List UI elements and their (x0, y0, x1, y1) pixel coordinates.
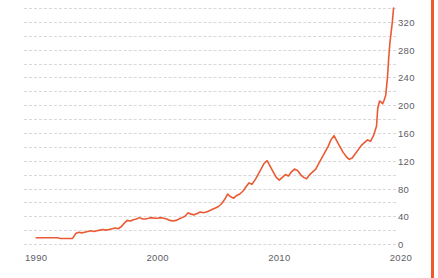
chart-container: 04080120160200240280320 1990200020102020 (0, 0, 438, 278)
x-axis-tick-label: 2000 (147, 252, 169, 263)
series-polyline (36, 8, 393, 238)
x-axis-tick-label: 2020 (390, 252, 412, 263)
y-axis-tick-label: 120 (398, 155, 428, 166)
x-axis-tick-label: 2010 (268, 252, 290, 263)
y-axis-tick-label: 80 (398, 183, 428, 194)
y-axis-tick-label: 200 (398, 100, 428, 111)
gridline (24, 244, 396, 245)
right-accent-bar (431, 0, 434, 278)
y-axis-tick-label: 160 (398, 127, 428, 138)
y-axis-tick-label: 40 (398, 211, 428, 222)
line-series (24, 8, 396, 244)
plot-area (24, 8, 396, 244)
y-axis-tick-label: 320 (398, 16, 428, 27)
y-axis: 04080120160200240280320 (398, 0, 434, 278)
y-axis-tick-label: 240 (398, 72, 428, 83)
y-axis-tick-label: 280 (398, 44, 428, 55)
x-axis: 1990200020102020 (0, 252, 438, 268)
x-axis-tick-label: 1990 (25, 252, 47, 263)
y-axis-tick-label: 0 (398, 239, 428, 250)
